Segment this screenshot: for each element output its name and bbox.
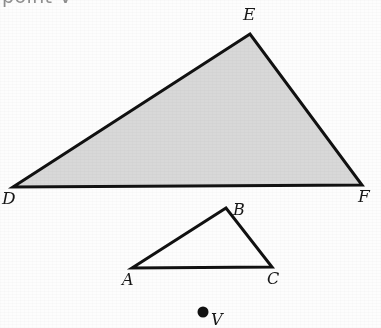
- vertex-label-a: A: [122, 272, 134, 288]
- vertex-label-c: C: [267, 271, 279, 287]
- triangle-def: [13, 34, 362, 187]
- triangle-abc: [132, 208, 272, 268]
- figure-canvas: [0, 0, 381, 328]
- point-label-v: V: [211, 312, 223, 328]
- vertex-label-e: E: [243, 6, 255, 23]
- vertex-label-f: F: [358, 188, 370, 205]
- geometry-figure: point V D E F A B C V: [0, 0, 381, 328]
- vertex-label-b: B: [233, 202, 245, 218]
- point-v-dot: [198, 307, 209, 318]
- vertex-label-d: D: [2, 190, 16, 207]
